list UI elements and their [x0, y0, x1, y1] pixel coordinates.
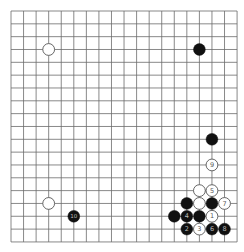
move-number-label: 4: [185, 212, 189, 220]
black-stone[interactable]: 6: [206, 223, 218, 235]
white-stone-icon: [194, 198, 206, 210]
black-stone-icon: [181, 198, 193, 210]
white-stone[interactable]: [194, 185, 206, 197]
move-number-label: 2: [185, 225, 189, 233]
move-number-label: 8: [222, 225, 226, 233]
black-stone[interactable]: [206, 133, 218, 145]
white-stone[interactable]: [194, 198, 206, 210]
white-stone-icon: [43, 44, 55, 56]
black-stone[interactable]: 4: [181, 210, 193, 222]
black-stone[interactable]: [206, 198, 218, 210]
move-number-label: 9: [210, 161, 214, 169]
white-stone[interactable]: [43, 198, 55, 210]
move-number-label: 1: [210, 212, 214, 220]
black-stone-icon: [206, 198, 218, 210]
black-stone[interactable]: [194, 44, 206, 56]
black-stone-icon: [194, 44, 206, 56]
white-stone-icon: [194, 185, 206, 197]
black-stone-icon: [168, 210, 180, 222]
black-stone[interactable]: [168, 210, 180, 222]
white-stone[interactable]: 5: [206, 185, 218, 197]
black-stone[interactable]: [194, 210, 206, 222]
white-stone[interactable]: 7: [219, 198, 231, 210]
white-stone[interactable]: 9: [206, 159, 218, 171]
white-stone[interactable]: 1: [206, 210, 218, 222]
black-stone-icon: [206, 133, 218, 145]
go-board[interactable]: 95741236810: [0, 0, 244, 252]
move-number-label: 5: [210, 187, 214, 195]
black-stone[interactable]: 8: [219, 223, 231, 235]
move-number-label: 7: [222, 200, 226, 208]
go-board-grid[interactable]: 95741236810: [0, 0, 244, 252]
black-stone[interactable]: [181, 198, 193, 210]
white-stone[interactable]: [43, 44, 55, 56]
black-stone[interactable]: 2: [181, 223, 193, 235]
white-stone[interactable]: 3: [194, 223, 206, 235]
move-number-label: 10: [70, 213, 77, 219]
black-stone-icon: [194, 210, 206, 222]
white-stone-icon: [43, 198, 55, 210]
move-number-label: 3: [197, 225, 201, 233]
black-stone[interactable]: 10: [68, 210, 80, 222]
move-number-label: 6: [210, 225, 214, 233]
